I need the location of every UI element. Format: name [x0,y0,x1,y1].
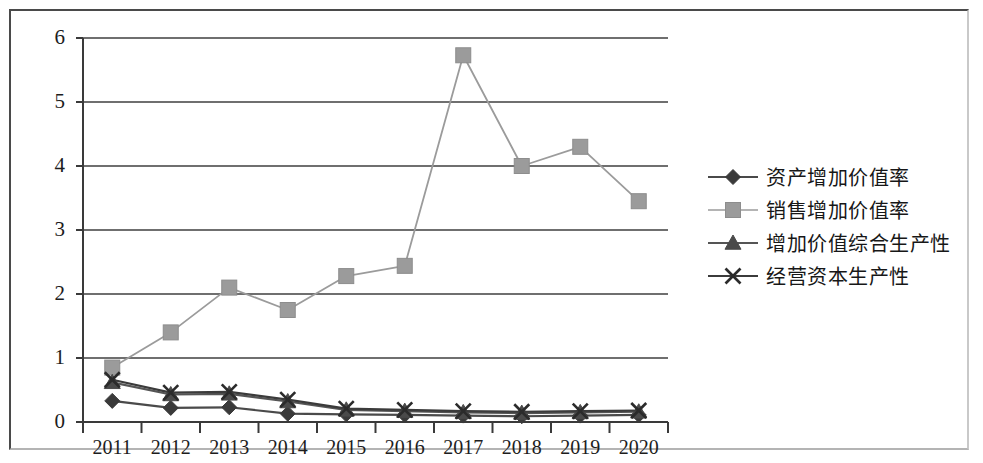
legend-item-3[interactable]: 经营资本生产性 [706,259,974,292]
series-2 [104,374,647,419]
square-marker-icon [631,194,646,209]
y-tick-label-4: 4 [35,155,65,176]
legend-label-0: 资产增加价值率 [760,162,910,191]
legend-item-0[interactable]: 资产增加价值率 [706,160,974,193]
square-marker-icon [514,159,529,174]
diamond-marker-icon [105,393,120,408]
square-marker-icon [280,303,295,318]
series-1 [105,48,647,375]
diamond-marker-icon [706,166,760,188]
square-marker-icon [573,139,588,154]
data-series-group [104,48,647,424]
diamond-marker-icon [222,400,237,415]
legend-swatch-2 [706,232,760,254]
chart-legend: 资产增加价值率销售增加价值率增加价值综合生产性经营资本生产性 [706,160,974,292]
diamond-marker-icon [280,406,295,421]
legend-swatch-3 [706,265,760,287]
diamond-marker-icon [726,169,741,184]
series-3 [105,372,647,419]
y-tick-label-5: 5 [35,91,65,112]
square-marker-icon [339,269,354,284]
axis-ticks [76,38,668,433]
square-marker-icon [726,202,741,217]
y-tick-label-2: 2 [35,283,65,304]
y-tick-label-1: 1 [35,347,65,368]
x-tick-label-2011: 2011 [82,437,142,457]
x-tick-label-2017: 2017 [433,437,493,457]
y-tick-label-0: 0 [35,411,65,432]
square-marker-icon [456,48,471,63]
diamond-marker-icon [163,400,178,415]
legend-item-1[interactable]: 销售增加价值率 [706,193,974,226]
x-tick-label-2014: 2014 [258,437,318,457]
gridlines [83,38,668,422]
x-marker-icon [706,265,760,287]
x-tick-label-2019: 2019 [550,437,610,457]
legend-label-2: 增加价值综合生产性 [760,228,951,257]
x-tick-label-2012: 2012 [141,437,201,457]
square-marker-icon [397,258,412,273]
triangle-marker-icon [706,232,760,254]
y-tick-label-6: 6 [35,27,65,48]
legend-label-1: 销售增加价值率 [760,195,910,224]
legend-swatch-0 [706,166,760,188]
chart-figure: 6543210 20112012201320142015201620172018… [0,0,983,463]
legend-item-2[interactable]: 增加价值综合生产性 [706,226,974,259]
legend-label-3: 经营资本生产性 [760,261,910,290]
legend-swatch-1 [706,199,760,221]
x-tick-label-2020: 2020 [609,437,669,457]
x-tick-label-2013: 2013 [199,437,259,457]
y-tick-label-3: 3 [35,219,65,240]
square-marker-icon [222,280,237,295]
x-tick-label-2016: 2016 [375,437,435,457]
square-marker-icon [163,325,178,340]
square-marker-icon [706,199,760,221]
x-tick-label-2015: 2015 [316,437,376,457]
x-tick-label-2018: 2018 [492,437,552,457]
